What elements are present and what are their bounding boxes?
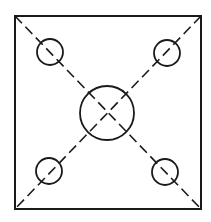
plate-diagram [0,0,211,222]
hole-bottom-left [36,158,62,184]
hole-top-right [154,40,180,66]
diagram-canvas [0,0,211,222]
